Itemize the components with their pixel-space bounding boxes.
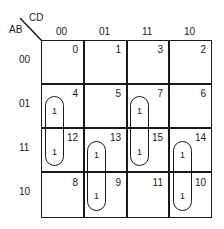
cell-index: 4 xyxy=(58,89,78,99)
cell-value-9: 1 xyxy=(87,192,106,201)
col-label-10: 10 xyxy=(184,27,195,37)
row-label-00: 00 xyxy=(19,55,30,65)
cell-value-7: 1 xyxy=(130,107,149,116)
cell-value-10: 1 xyxy=(173,192,192,201)
cell-index: 3 xyxy=(143,45,163,55)
cell-index: 6 xyxy=(186,89,206,99)
row-label-10: 10 xyxy=(19,187,30,197)
cell-value-13: 1 xyxy=(87,151,106,160)
cell-index: 11 xyxy=(143,178,163,188)
cell-value-4: 1 xyxy=(45,107,64,116)
row-variable-label: AB xyxy=(9,25,22,35)
cell-index: 1 xyxy=(101,45,121,55)
cell-value-12: 1 xyxy=(45,148,64,157)
cell-index: 2 xyxy=(186,45,206,55)
grid-divider xyxy=(41,83,212,85)
cell-index: 13 xyxy=(101,133,121,143)
cell-index: 8 xyxy=(58,178,78,188)
col-label-01: 01 xyxy=(99,27,110,37)
grid-divider xyxy=(126,40,128,218)
col-label-00: 00 xyxy=(56,27,67,37)
cell-index: 0 xyxy=(58,45,78,55)
cell-value-15: 1 xyxy=(130,148,149,157)
cell-value-14: 1 xyxy=(173,151,192,160)
cell-index: 14 xyxy=(186,133,206,143)
row-label-01: 01 xyxy=(19,99,30,109)
col-variable-label: CD xyxy=(29,13,43,23)
cell-index: 5 xyxy=(101,89,121,99)
col-label-11: 11 xyxy=(142,27,152,37)
grid-divider xyxy=(41,127,212,129)
cell-index: 7 xyxy=(143,89,163,99)
grid-divider xyxy=(83,40,85,218)
grid-divider xyxy=(168,40,170,218)
row-label-11: 11 xyxy=(19,143,29,153)
